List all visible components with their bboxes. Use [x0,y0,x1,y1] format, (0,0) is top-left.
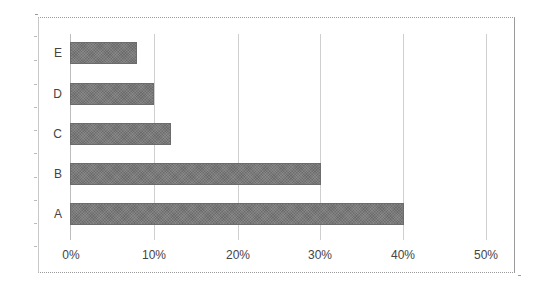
category-label-e: E [40,46,62,60]
axis-tick-mark [34,107,37,108]
axis-tick-mark [34,200,37,201]
category-label-d: D [40,87,62,101]
x-tick-label: 40% [383,248,423,262]
bar-b [70,163,321,185]
x-tick-label: 0% [51,248,91,262]
axis-tick-mark [34,36,37,37]
x-tick-label: 10% [134,248,174,262]
axis-tick-mark [34,84,37,85]
axis-tick-mark [34,177,37,178]
gridline-50 [486,34,487,240]
axis-tick-mark [34,130,37,131]
corner-marker [35,14,38,15]
category-label-b: B [40,167,62,181]
axis-tick-mark [34,153,37,154]
axis-tick-mark [34,60,37,61]
bar-e [70,42,137,64]
x-tick-label: 30% [300,248,340,262]
category-label-a: A [40,207,62,221]
axis-tick-mark [34,223,37,224]
axis-tick-mark [34,246,37,247]
x-tick-label: 50% [466,248,506,262]
bar-c [70,123,171,145]
x-tick-label: 20% [218,248,258,262]
bar-d [70,83,154,105]
category-label-c: C [40,127,62,141]
bar-a [70,203,404,225]
corner-marker [518,275,521,276]
